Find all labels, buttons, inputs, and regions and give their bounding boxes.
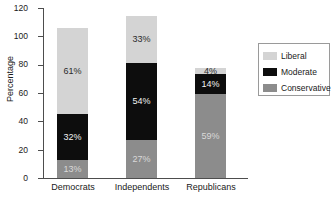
legend-swatch-liberal-icon bbox=[263, 52, 277, 60]
y-tick-40 bbox=[38, 121, 43, 122]
y-tick-120 bbox=[38, 8, 43, 9]
bar-independents[interactable]: 33% 54% 27% bbox=[126, 16, 157, 178]
bar-segment-democrats-liberal[interactable]: 61% bbox=[57, 28, 88, 114]
y-tick-60 bbox=[38, 93, 43, 94]
legend-label-moderate: Moderate bbox=[281, 68, 317, 77]
y-tick-80 bbox=[38, 65, 43, 66]
legend: Liberal Moderate Conservative bbox=[258, 43, 330, 96]
bar-label-independents-liberal: 33% bbox=[132, 35, 150, 44]
y-tick-label-120: 120 bbox=[4, 4, 28, 13]
plot-area: 61% 32% 13% 33% 54% 27% 4% bbox=[43, 8, 243, 178]
bar-segment-independents-liberal[interactable]: 33% bbox=[126, 16, 157, 63]
bar-segment-republicans-moderate[interactable]: 14% bbox=[195, 74, 226, 94]
legend-swatch-moderate-icon bbox=[263, 68, 277, 76]
y-axis-title: Percentage bbox=[5, 43, 15, 115]
y-axis-line bbox=[43, 8, 44, 178]
bar-democrats[interactable]: 61% 32% 13% bbox=[57, 28, 88, 178]
bar-segment-independents-conservative[interactable]: 27% bbox=[126, 140, 157, 178]
bar-segment-republicans-conservative[interactable]: 59% bbox=[195, 94, 226, 178]
y-tick-0 bbox=[38, 178, 43, 179]
bar-label-democrats-moderate: 32% bbox=[63, 133, 81, 142]
y-tick-100 bbox=[38, 36, 43, 37]
legend-item-conservative[interactable]: Conservative bbox=[263, 80, 329, 96]
x-axis-label-democrats: Democrats bbox=[33, 182, 113, 192]
x-axis-label-republicans: Republicans bbox=[171, 182, 251, 192]
bar-label-democrats-conservative: 13% bbox=[63, 165, 81, 174]
legend-label-liberal: Liberal bbox=[281, 52, 307, 61]
y-tick-label-40: 40 bbox=[4, 117, 28, 126]
y-tick-label-100: 100 bbox=[4, 32, 28, 41]
y-tick-label-60: 60 bbox=[4, 89, 28, 98]
bar-segment-democrats-moderate[interactable]: 32% bbox=[57, 114, 88, 160]
y-tick-label-0: 0 bbox=[4, 174, 28, 183]
bar-label-independents-moderate: 54% bbox=[132, 97, 150, 106]
x-axis-line bbox=[43, 178, 248, 179]
bar-segment-democrats-conservative[interactable]: 13% bbox=[57, 160, 88, 178]
y-tick-label-20: 20 bbox=[4, 146, 28, 155]
legend-item-moderate[interactable]: Moderate bbox=[263, 64, 329, 80]
bar-label-republicans-moderate: 14% bbox=[201, 80, 219, 89]
bar-segment-independents-moderate[interactable]: 54% bbox=[126, 63, 157, 140]
bar-label-republicans-conservative: 59% bbox=[201, 132, 219, 141]
bar-label-independents-conservative: 27% bbox=[132, 155, 150, 164]
legend-label-conservative: Conservative bbox=[281, 84, 331, 93]
y-tick-label-80: 80 bbox=[4, 60, 28, 69]
bar-label-democrats-liberal: 61% bbox=[63, 67, 81, 76]
bar-republicans[interactable]: 4% 14% 59% bbox=[195, 68, 226, 178]
y-tick-20 bbox=[38, 150, 43, 151]
legend-swatch-conservative-icon bbox=[263, 84, 277, 92]
stacked-bar-chart: Percentage 120 100 80 60 40 20 0 61% 32%… bbox=[0, 0, 335, 199]
x-axis-label-independents: Independents bbox=[102, 182, 182, 192]
legend-item-liberal[interactable]: Liberal bbox=[263, 48, 329, 64]
